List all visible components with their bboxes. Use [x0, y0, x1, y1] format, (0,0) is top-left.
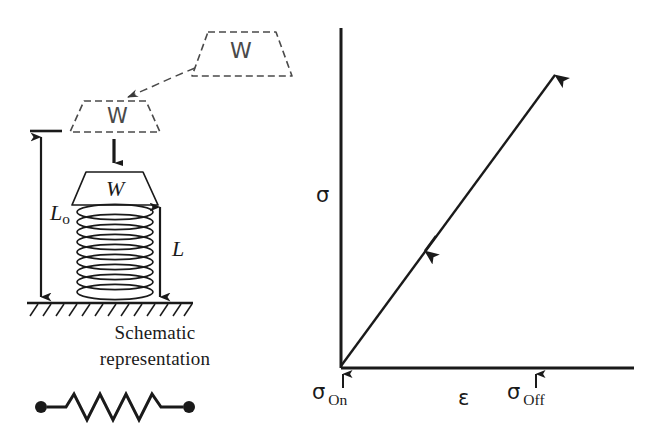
length-original-symbol: L: [50, 200, 62, 225]
stress-on-label: σOn: [312, 382, 347, 408]
x-axis-label: ε: [458, 388, 469, 409]
stress-off-symbol: σ: [507, 380, 520, 404]
figure-root: W W W Lo L Schematic representation: [0, 0, 658, 430]
ground-support: [27, 303, 193, 316]
stress-on-symbol: σ: [312, 380, 325, 404]
weight-label-far: W: [230, 40, 252, 62]
length-original-subscript: o: [62, 210, 70, 227]
stress-on-subscript: On: [325, 391, 347, 408]
schematic-caption-line-1: Schematic: [0, 322, 310, 344]
spring-symbol-zigzag: [35, 394, 195, 420]
weight-label-dashed: W: [107, 106, 128, 127]
motion-arrow-dashed: [128, 68, 195, 97]
y-axis-label: σ: [316, 185, 329, 206]
schematic-panel: W W W Lo L Schematic representation: [0, 0, 310, 430]
schematic-caption-line-2: representation: [0, 348, 310, 370]
stress-off-subscript: Off: [520, 391, 544, 408]
stress-strain-chart: σ ε σOn σOff: [300, 0, 658, 430]
coil-spring: [77, 204, 153, 299]
length-loaded-label: L: [172, 238, 184, 260]
elastic-response-line: [341, 75, 555, 366]
weight-label-solid: W: [106, 178, 124, 200]
chart-drawing: [300, 0, 658, 430]
stress-off-label: σOff: [507, 382, 545, 408]
unloading-direction-arrowhead: [425, 236, 436, 251]
length-original-label: Lo: [50, 202, 70, 227]
